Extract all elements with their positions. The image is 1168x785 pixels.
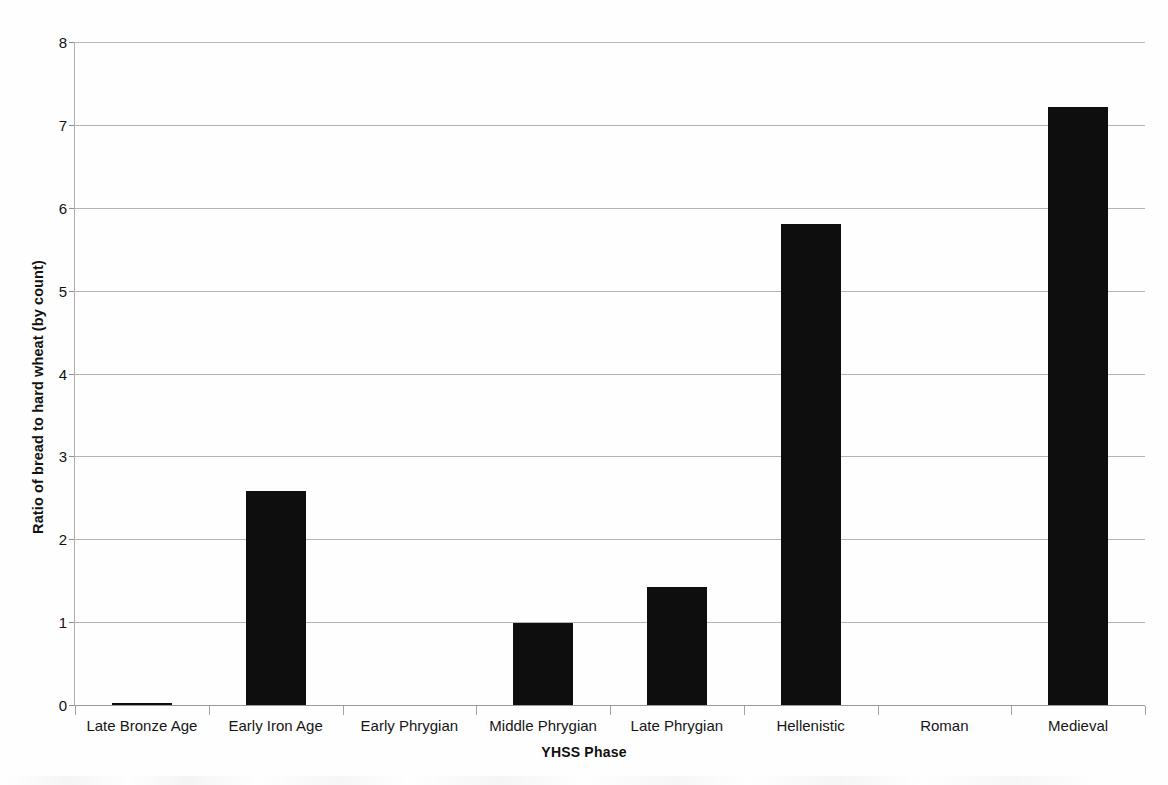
gridline (75, 374, 1145, 375)
x-axis-category-label: Late Phrygian (600, 716, 754, 736)
x-axis-tick-mark (476, 706, 477, 715)
x-axis-category-label: Medieval (1001, 716, 1155, 736)
x-axis-category-label: Middle Phrygian (466, 716, 620, 736)
bar-chart-figure: Ratio of bread to hard wheat (by count) … (0, 0, 1168, 785)
x-axis-category-label: Early Iron Age (199, 716, 353, 736)
gridline (75, 291, 1145, 292)
bar (112, 703, 172, 705)
gridline (75, 622, 1145, 623)
bar (513, 623, 573, 705)
x-axis-category-label: Late Bronze Age (65, 716, 219, 736)
bar (647, 587, 707, 706)
x-axis-category-label: Hellenistic (734, 716, 888, 736)
x-axis-tick-mark (878, 706, 879, 715)
x-axis-title: YHSS Phase (0, 744, 1168, 760)
x-axis-tick-mark (343, 706, 344, 715)
gridline (75, 42, 1145, 43)
x-axis-tick-mark (75, 706, 76, 715)
x-axis-category-label: Early Phrygian (333, 716, 487, 736)
gridline (75, 456, 1145, 457)
scan-artifact (0, 776, 1168, 785)
gridline (75, 539, 1145, 540)
bar (781, 224, 841, 705)
x-axis-tick-mark (610, 706, 611, 715)
y-axis-tick-marks (0, 42, 80, 705)
plot-area (75, 42, 1145, 705)
x-axis-tick-mark (744, 706, 745, 715)
gridline (75, 125, 1145, 126)
bar (246, 491, 306, 705)
x-axis-tick-mark (1145, 706, 1146, 715)
x-axis-tick-mark (1011, 706, 1012, 715)
x-axis-tick-marks (75, 706, 1146, 716)
bar (1048, 107, 1108, 705)
x-axis-tick-mark (209, 706, 210, 715)
x-axis-category-label: Roman (868, 716, 1022, 736)
gridline (75, 208, 1145, 209)
x-axis-tick-labels: Late Bronze AgeEarly Iron AgeEarly Phryg… (75, 716, 1146, 742)
